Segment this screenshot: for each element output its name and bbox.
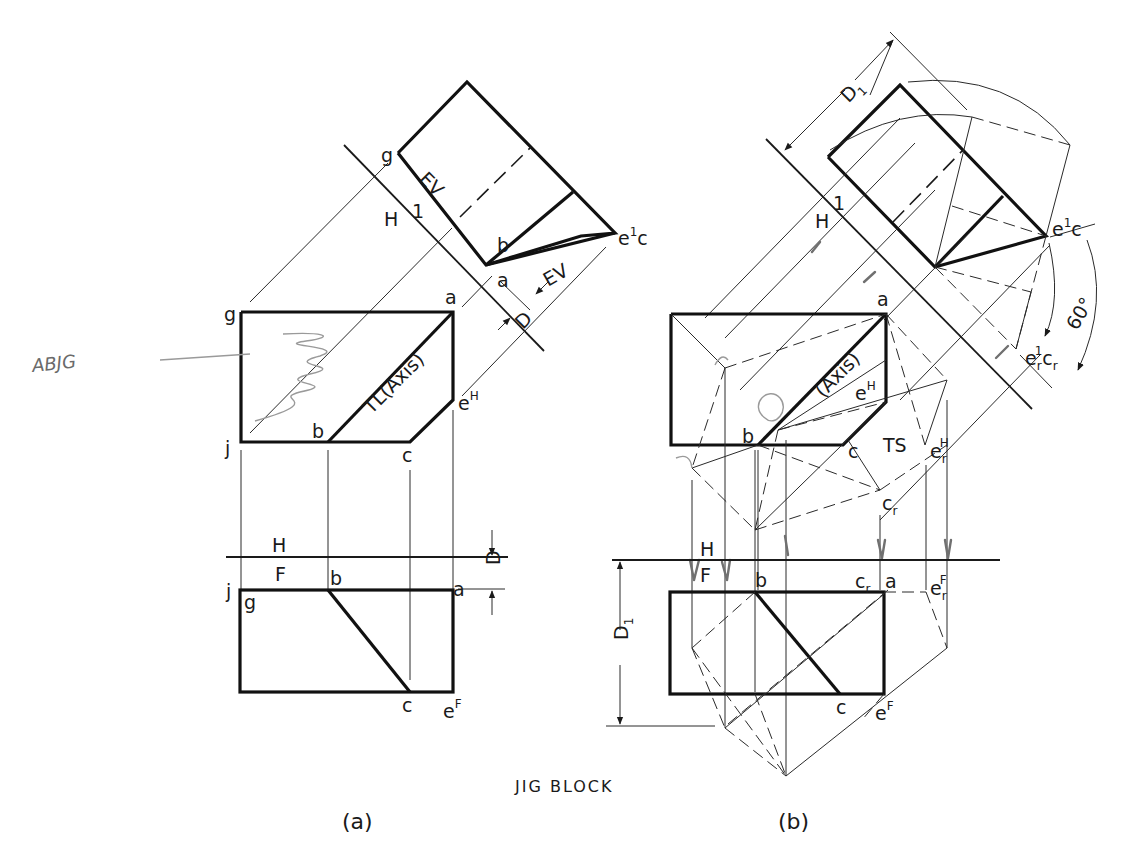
rotation-arc-1 bbox=[908, 80, 1070, 145]
front-edge-bc-b bbox=[755, 592, 840, 694]
label-c-top: c bbox=[402, 444, 412, 466]
label-j-top: j bbox=[224, 437, 230, 459]
label-c-front: c bbox=[402, 694, 412, 716]
label-b-front-b: b bbox=[755, 569, 767, 591]
jig-block-drawing: g EV H 1 b a EV D e1c ABJG g a TL(Axis) … bbox=[0, 0, 1126, 855]
label-ts: TS bbox=[882, 434, 907, 456]
label-c-top-b: c bbox=[848, 440, 858, 462]
rotation-arc-3 bbox=[1045, 243, 1055, 336]
label-ev-face: EV bbox=[415, 167, 448, 200]
label-1-fold-b: 1 bbox=[833, 192, 845, 214]
caption-b: (b) bbox=[778, 809, 809, 834]
label-eh-top-b: eH bbox=[855, 379, 876, 404]
dim-arrow-1 bbox=[498, 318, 510, 330]
label-d-aux: D bbox=[510, 307, 536, 333]
label-h-hf-b: H bbox=[700, 538, 714, 560]
label-1-fold-a: 1 bbox=[412, 200, 424, 222]
projector-a bbox=[462, 276, 492, 307]
label-d1-aux: D1 bbox=[836, 75, 870, 109]
aux-view-a: g EV H 1 b a EV D e1c bbox=[250, 82, 648, 433]
caption-a: (a) bbox=[342, 809, 373, 834]
label-ec-aux: e1c bbox=[618, 225, 648, 249]
label-b-front: b bbox=[330, 567, 342, 589]
front-edge-bc bbox=[328, 590, 410, 692]
label-axis-a: TL(Axis) bbox=[358, 348, 428, 418]
label-h-fold-b: H bbox=[815, 210, 829, 232]
top-view-a: ABJG g a TL(Axis) eH j b c bbox=[30, 286, 479, 466]
label-erf-front-b: erF bbox=[930, 573, 947, 603]
label-er-cr-aux-b: er1cr bbox=[1025, 344, 1058, 373]
aux-hidden-edge bbox=[460, 147, 531, 217]
pencil-scribble bbox=[255, 333, 327, 421]
label-g-aux: g bbox=[381, 144, 393, 166]
label-cr-top-b: cr bbox=[882, 492, 897, 518]
label-d1-front-b: D1 bbox=[610, 618, 636, 640]
front-outline-a bbox=[240, 590, 453, 692]
top-view-b: a (Axis) eH b c TS erH cr bbox=[671, 288, 949, 545]
label-60deg: 60° bbox=[1061, 293, 1097, 333]
label-a-top: a bbox=[445, 286, 457, 308]
label-a-front-b: a bbox=[885, 570, 897, 592]
label-g-top: g bbox=[224, 303, 236, 325]
view-a: g EV H 1 b a EV D e1c ABJG g a TL(Axis) … bbox=[30, 82, 648, 722]
projector-j bbox=[250, 228, 452, 433]
label-b-top: b bbox=[312, 420, 324, 442]
label-g-front: g bbox=[244, 591, 256, 613]
label-a-front: a bbox=[453, 578, 465, 600]
label-f-hf-a: F bbox=[275, 563, 286, 585]
front-outline-b bbox=[670, 592, 884, 694]
label-eh-top: eH bbox=[458, 389, 479, 414]
label-ef-front: eF bbox=[443, 697, 462, 722]
front-view-a: j g b a c eF bbox=[225, 567, 465, 722]
projector-g bbox=[250, 163, 388, 302]
label-h-fold-a: H bbox=[384, 208, 398, 230]
label-f-hf-b: F bbox=[700, 564, 711, 586]
label-ef-front-b: eF bbox=[875, 699, 894, 724]
label-erh-top-b: erH bbox=[930, 436, 949, 466]
fold-line-hf-a: H F D bbox=[226, 530, 508, 615]
label-h-hf-a: H bbox=[272, 534, 286, 556]
label-c-front-b: c bbox=[836, 696, 846, 718]
projectors-b bbox=[690, 400, 951, 776]
label-a-top-b: a bbox=[877, 288, 889, 310]
aux-hidden-b bbox=[893, 150, 963, 222]
label-b-aux: b bbox=[497, 234, 509, 256]
label-b-top-b: b bbox=[742, 425, 754, 447]
view-b: D1 60° H 1 e1c er1cr bbox=[606, 32, 1097, 776]
label-j-front: j bbox=[225, 580, 231, 602]
figure-title: JIG BLOCK bbox=[514, 777, 614, 796]
label-d-hf-a: D bbox=[482, 550, 504, 565]
label-a-aux: a bbox=[497, 269, 509, 291]
handwritten-note: ABJG bbox=[30, 350, 77, 376]
front-view-b: b cr a erF c eF bbox=[670, 569, 947, 776]
pencil-leader bbox=[160, 354, 250, 360]
label-ec-aux-b: e1c bbox=[1052, 216, 1082, 240]
